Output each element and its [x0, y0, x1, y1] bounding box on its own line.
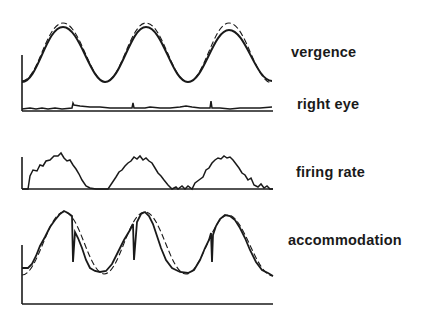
accommodation-label: accommodation [288, 232, 402, 248]
accommodation-response-trace [22, 211, 273, 276]
figure-canvas [0, 0, 430, 319]
vergence-label: vergence [291, 44, 356, 60]
right-eye-label: right eye [297, 96, 359, 112]
right-eye-trace [22, 101, 272, 109]
accommodation-panel [22, 211, 273, 304]
firing-rate-trace [22, 153, 273, 189]
vergence-panel [22, 23, 273, 111]
vergence-response-trace [22, 27, 272, 82]
firing-rate-panel [22, 153, 273, 189]
firing-rate-label: firing rate [296, 164, 365, 180]
